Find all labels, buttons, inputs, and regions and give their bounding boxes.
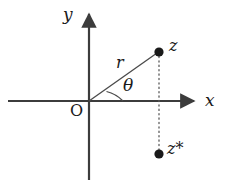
- y-axis-label: y: [63, 6, 73, 23]
- z-conjugate-star: *: [175, 139, 183, 158]
- point-z-conjugate-label: z*: [167, 141, 183, 157]
- point-z: [154, 47, 163, 56]
- point-z-label: z: [169, 38, 177, 54]
- complex-plane-figure: y x O r θ z z*: [0, 0, 235, 190]
- radius-label: r: [116, 55, 124, 71]
- figure-canvas: [0, 0, 235, 190]
- theta-arc: [107, 92, 124, 102]
- x-axis-label: x: [205, 92, 215, 109]
- origin-label: O: [70, 103, 83, 119]
- point-z-conjugate: [154, 149, 163, 158]
- theta-angle-label: θ: [123, 77, 133, 94]
